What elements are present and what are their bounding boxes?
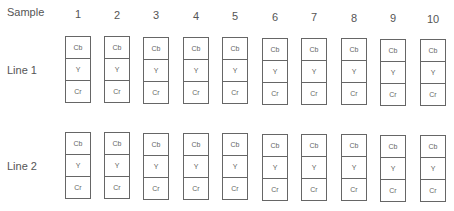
component-cb: Cb: [381, 40, 405, 62]
component-y: Y: [342, 157, 366, 179]
component-cr: Cr: [105, 177, 129, 198]
component-cb: Cb: [223, 134, 247, 156]
column-number-9: 9: [380, 12, 406, 24]
component-cb: Cb: [263, 135, 287, 157]
component-cb: Cb: [302, 135, 326, 157]
component-cb: Cb: [105, 37, 129, 59]
component-cr: Cr: [184, 178, 208, 199]
component-cb: Cb: [184, 134, 208, 156]
sample-block-line-1-col-9: CbYCr: [380, 39, 406, 106]
sample-block-line-2-col-3: CbYCr: [143, 133, 169, 200]
sample-block-line-2-col-6: CbYCr: [262, 134, 288, 201]
sample-block-line-1-col-4: CbYCr: [183, 37, 209, 104]
component-cb: Cb: [144, 134, 168, 156]
component-y: Y: [223, 60, 247, 82]
component-y: Y: [381, 62, 405, 84]
sample-block-line-1-col-7: CbYCr: [301, 38, 327, 105]
component-cb: Cb: [105, 133, 129, 155]
sample-block-line-1-col-6: CbYCr: [262, 38, 288, 105]
sample-block-line-1-col-2: CbYCr: [104, 36, 130, 103]
component-y: Y: [144, 60, 168, 82]
sample-block-line-1-col-3: CbYCr: [143, 37, 169, 104]
component-cr: Cr: [302, 83, 326, 104]
sample-block-line-1-col-8: CbYCr: [341, 38, 367, 105]
component-cb: Cb: [421, 40, 445, 62]
component-cb: Cb: [263, 39, 287, 61]
component-y: Y: [223, 156, 247, 178]
component-cb: Cb: [342, 39, 366, 61]
sample-block-line-2-col-1: CbYCr: [65, 132, 91, 199]
column-number-4: 4: [183, 10, 209, 22]
component-cr: Cr: [105, 81, 129, 102]
component-cr: Cr: [144, 178, 168, 199]
column-number-7: 7: [301, 11, 327, 23]
component-cr: Cr: [66, 81, 90, 102]
component-cr: Cr: [144, 82, 168, 103]
component-cb: Cb: [66, 133, 90, 155]
sample-block-line-2-col-4: CbYCr: [183, 133, 209, 200]
sample-block-line-2-col-5: CbYCr: [222, 133, 248, 200]
component-cr: Cr: [381, 180, 405, 201]
column-number-10: 10: [420, 13, 446, 25]
component-y: Y: [263, 61, 287, 83]
component-cb: Cb: [421, 136, 445, 158]
component-y: Y: [66, 59, 90, 81]
component-cb: Cb: [223, 38, 247, 60]
component-y: Y: [184, 156, 208, 178]
row-label-line-2: Line 2: [7, 160, 37, 172]
component-y: Y: [105, 155, 129, 177]
component-y: Y: [105, 59, 129, 81]
component-cr: Cr: [381, 84, 405, 105]
component-y: Y: [302, 157, 326, 179]
sample-block-line-2-col-2: CbYCr: [104, 132, 130, 199]
component-cr: Cr: [342, 179, 366, 200]
column-number-6: 6: [262, 11, 288, 23]
component-cr: Cr: [421, 84, 445, 105]
component-cb: Cb: [144, 38, 168, 60]
sample-block-line-1-col-10: CbYCr: [420, 39, 446, 106]
component-cb: Cb: [302, 39, 326, 61]
component-cr: Cr: [223, 178, 247, 199]
component-y: Y: [263, 157, 287, 179]
component-cr: Cr: [66, 177, 90, 198]
component-cb: Cb: [66, 37, 90, 59]
component-y: Y: [421, 62, 445, 84]
component-y: Y: [342, 61, 366, 83]
column-number-3: 3: [143, 9, 169, 21]
component-y: Y: [302, 61, 326, 83]
component-cr: Cr: [263, 179, 287, 200]
component-cr: Cr: [421, 180, 445, 201]
component-cr: Cr: [184, 82, 208, 103]
sample-block-line-2-col-9: CbYCr: [380, 135, 406, 202]
column-number-2: 2: [104, 9, 130, 21]
component-cr: Cr: [263, 83, 287, 104]
sample-block-line-2-col-8: CbYCr: [341, 134, 367, 201]
sample-header: Sample: [7, 6, 44, 18]
component-y: Y: [184, 60, 208, 82]
column-number-5: 5: [222, 10, 248, 22]
column-number-1: 1: [65, 8, 91, 20]
component-cb: Cb: [381, 136, 405, 158]
sample-block-line-2-col-10: CbYCr: [420, 135, 446, 202]
sample-block-line-2-col-7: CbYCr: [301, 134, 327, 201]
component-cb: Cb: [342, 135, 366, 157]
row-label-line-1: Line 1: [7, 64, 37, 76]
component-cr: Cr: [342, 83, 366, 104]
component-cb: Cb: [184, 38, 208, 60]
component-cr: Cr: [223, 82, 247, 103]
component-y: Y: [144, 156, 168, 178]
component-y: Y: [421, 158, 445, 180]
component-y: Y: [66, 155, 90, 177]
component-cr: Cr: [302, 179, 326, 200]
column-number-8: 8: [341, 12, 367, 24]
component-y: Y: [381, 158, 405, 180]
sample-block-line-1-col-1: CbYCr: [65, 36, 91, 103]
sample-block-line-1-col-5: CbYCr: [222, 37, 248, 104]
